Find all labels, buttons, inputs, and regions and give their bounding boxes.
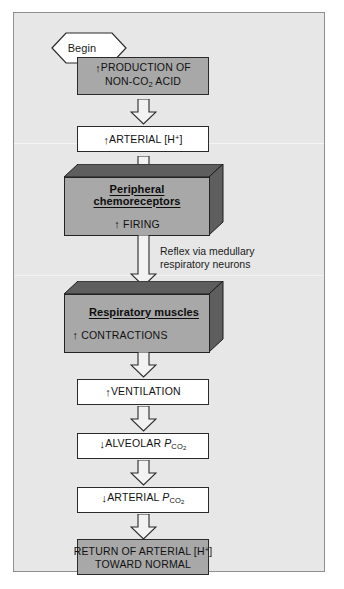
arrow-muscles-to-ventilation — [130, 352, 157, 378]
muscles-title: Respiratory muscles — [65, 306, 209, 318]
node-production: ↑PRODUCTION OF NON-CO2 ACID — [77, 57, 209, 95]
node-arterial-pco2: ↓ARTERIAL PCO2 — [77, 487, 209, 513]
subscript-co2: CO2 — [171, 442, 186, 451]
chemoreceptors-body: ↑ FIRING — [65, 218, 209, 231]
muscles-front-face: Respiratory muscles ↑ CONTRACTIONS — [64, 294, 210, 353]
node-respiratory-muscles: Respiratory muscles ↑ CONTRACTIONS — [64, 281, 224, 353]
arrow-ventilation-to-alveolar — [130, 406, 157, 432]
chemoreceptors-title: Peripheral chemoreceptors — [65, 183, 209, 207]
scan-artifact — [14, 275, 324, 276]
arrow-production-to-arterial — [130, 99, 157, 125]
muscles-body: ↑ CONTRACTIONS — [65, 329, 209, 342]
return-normal-box: RETURN OF ARTERIAL [H+] TOWARD NORMAL — [77, 539, 209, 575]
arrow-chemoreceptors-to-muscles — [130, 235, 157, 287]
return-normal-line-2: TOWARD NORMAL — [95, 558, 191, 571]
node-ventilation: ↑VENTILATION — [77, 379, 209, 405]
figure-canvas: Begin ↑PRODUCTION OF NON-CO2 ACID ↑ARTER… — [0, 0, 344, 589]
arrow-alveolar-to-arterial — [130, 460, 157, 486]
figure-frame: Begin ↑PRODUCTION OF NON-CO2 ACID ↑ARTER… — [13, 12, 325, 572]
up-arrow-icon: ↑ — [114, 218, 120, 230]
ventilation-box: ↑VENTILATION — [77, 379, 209, 405]
production-box: ↑PRODUCTION OF NON-CO2 ACID — [77, 57, 209, 95]
arterial-pco2-box: ↓ARTERIAL PCO2 — [77, 487, 209, 513]
arrow-arterial-to-return — [130, 514, 157, 540]
production-line-2: NON-CO2 ACID — [105, 75, 181, 91]
node-arterial-h: ↑ARTERIAL [H+] — [77, 126, 209, 152]
arterial-h-text: ↑ARTERIAL [H+] — [103, 131, 182, 147]
return-normal-line-1: RETURN OF ARTERIAL [H+] — [74, 543, 213, 558]
arterial-pco2-text: ↓ARTERIAL PCO2 — [102, 491, 185, 509]
node-return-normal: RETURN OF ARTERIAL [H+] TOWARD NORMAL — [77, 539, 209, 575]
node-alveolar-pco2: ↓ALVEOLAR PCO2 — [77, 433, 209, 459]
up-arrow-icon: ↑ — [72, 329, 78, 341]
node-peripheral-chemoreceptors: Peripheral chemoreceptors ↑ FIRING — [64, 164, 224, 236]
reflex-annotation: Reflex via medullary respiratory neurons — [160, 245, 255, 271]
arterial-h-box: ↑ARTERIAL [H+] — [77, 126, 209, 152]
subscript-co2: CO2 — [169, 496, 184, 505]
chemoreceptors-front-face: Peripheral chemoreceptors ↑ FIRING — [64, 177, 210, 236]
alveolar-pco2-text: ↓ALVEOLAR PCO2 — [100, 437, 187, 455]
alveolar-pco2-box: ↓ALVEOLAR PCO2 — [77, 433, 209, 459]
production-line-1: ↑PRODUCTION OF — [95, 61, 191, 75]
ventilation-text: ↑VENTILATION — [105, 385, 180, 399]
